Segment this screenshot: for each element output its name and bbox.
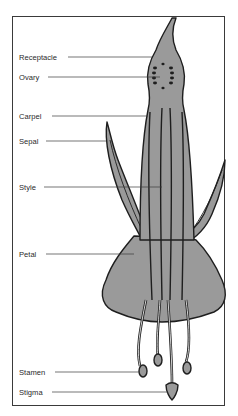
- receptacle: [140, 18, 194, 240]
- petal: [102, 236, 225, 322]
- stigma: [166, 383, 178, 400]
- label-sepal: Sepal: [19, 137, 38, 146]
- label-receptacle: Receptacle: [19, 53, 57, 62]
- anther: [139, 365, 147, 377]
- label-carpel: Carpel: [19, 112, 41, 121]
- label-style: Style: [19, 183, 36, 192]
- label-stamen: Stamen: [19, 368, 45, 377]
- label-stigma: Stigma: [19, 388, 43, 397]
- label-ovary: Ovary: [19, 73, 39, 82]
- label-petal: Petal: [19, 250, 36, 259]
- flower-diagram: [0, 0, 238, 416]
